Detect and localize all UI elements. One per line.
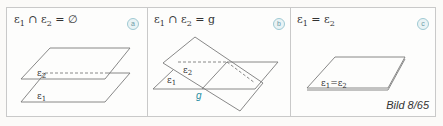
planes-drawing: ε2 ε1 ε2 ε1 g ε1=ε2 xyxy=(0,0,443,126)
panel-b-label-g: g xyxy=(196,90,202,101)
panel-b-intersection-line xyxy=(202,62,227,89)
panel-a-label-e1: ε1 xyxy=(37,91,46,103)
panel-b-hidden-edge-slope xyxy=(227,62,255,83)
figure-caption: Bild 8/65 xyxy=(386,99,429,111)
panel-b-tilted-plane xyxy=(163,37,263,111)
panel-b-label-e2: ε2 xyxy=(183,65,192,77)
panel-b-label-e1: ε1 xyxy=(167,75,176,87)
